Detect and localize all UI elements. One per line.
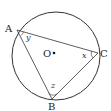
angle-label-z: z xyxy=(50,81,56,90)
vertex-label-c: C xyxy=(100,48,108,59)
vertex-label-a: A xyxy=(4,23,13,34)
angle-arc-c xyxy=(91,51,93,58)
circumcircle xyxy=(12,12,100,100)
vertex-label-b: B xyxy=(48,101,55,111)
angle-label-y: y xyxy=(25,33,31,42)
angle-arc-a xyxy=(21,32,24,36)
circle-triangle-diagram: O A B C y x z xyxy=(0,0,111,111)
center-label: O xyxy=(43,48,51,59)
center-point xyxy=(53,52,56,55)
angle-label-x: x xyxy=(82,51,87,60)
